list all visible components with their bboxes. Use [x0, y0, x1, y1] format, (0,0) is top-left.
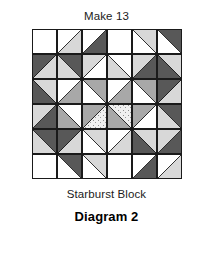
- quilt-patch-square: [107, 29, 132, 54]
- quilt-patch-square: [32, 29, 57, 54]
- starburst-block-diagram: [32, 29, 182, 179]
- block-name-label: Starburst Block: [67, 188, 146, 201]
- quilt-patch-square: [107, 154, 132, 179]
- quilt-patch-square: [32, 154, 57, 179]
- quilt-block-svg: [32, 29, 182, 179]
- figure-container: Make 13 Starburst Block Diagram 2: [0, 0, 213, 260]
- diagram-number-label: Diagram 2: [75, 209, 139, 224]
- make-count-label: Make 13: [84, 10, 129, 23]
